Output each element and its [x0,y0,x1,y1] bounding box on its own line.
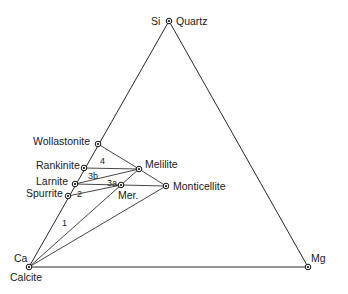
label-spurrite: Spurrite [26,187,63,199]
field-label-3a: 3a [107,178,117,188]
point-calcite [26,264,32,270]
point-wollastonite [95,141,101,147]
label-quartz: Quartz [176,15,208,27]
label-si: Si [151,15,160,27]
edge-si-mg [169,21,308,267]
point-melilite [136,166,142,172]
tie-melilite-monticellite [139,169,166,186]
field-label-3b: 3b [88,171,98,181]
label-melilite: Melilite [145,158,178,170]
point-merwinite [118,182,124,188]
vertex-labels: Si Quartz Ca Calcite Mg [10,15,326,283]
field-label-2: 2 [77,189,82,199]
tie-merwinite-monticellite [121,185,166,186]
label-larnite: Larnite [36,175,68,187]
label-mg: Mg [311,252,326,264]
tie-rankinite-melilite [84,168,139,169]
field-label-1: 1 [62,218,67,228]
point-spurrite [65,193,71,199]
point-larnite [72,181,78,187]
phase-labels: Wollastonite Rankinite Larnite Spurrite … [26,135,226,201]
point-mg [305,264,311,270]
label-ca: Ca [14,252,28,264]
label-wollastonite: Wollastonite [33,135,90,147]
ternary-diagram: Si Quartz Ca Calcite Mg Wollastonite Ran… [0,0,348,294]
label-calcite: Calcite [10,271,42,283]
point-rankinite [81,165,87,171]
label-monticellite: Monticellite [173,180,226,192]
field-label-4: 4 [100,156,105,166]
point-quartz [166,18,172,24]
label-merwinite: Mer. [118,189,138,201]
point-monticellite [163,183,169,189]
label-rankinite: Rankinite [36,159,80,171]
